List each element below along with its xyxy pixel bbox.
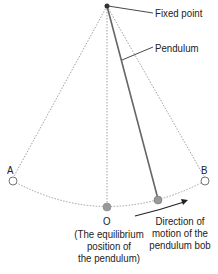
direction-caption: Direction of motion of the pendulum bob — [147, 215, 214, 251]
pendulum-string — [107, 6, 158, 199]
pendulum-leader — [122, 47, 153, 60]
fixed-point-leader — [108, 6, 153, 13]
dotted-line-to-a — [13, 6, 107, 178]
point-b-label: B — [201, 164, 207, 176]
point-o-label: O — [103, 215, 111, 227]
point-a-label: A — [7, 164, 13, 176]
direction-arrow — [135, 202, 184, 216]
equilibrium-caption: (The equilibrium position of the pendulu… — [68, 228, 151, 264]
pendulum-label: Pendulum — [155, 42, 199, 54]
bob-position-o — [103, 203, 111, 211]
direction-caption-line: motion of the — [147, 227, 214, 239]
arrow-head-icon — [181, 199, 188, 205]
direction-caption-line: Direction of — [147, 215, 214, 227]
dotted-line-to-b — [107, 6, 205, 178]
bob-position-b — [201, 177, 209, 185]
equilibrium-caption-line: position of — [68, 240, 151, 252]
equilibrium-caption-line: the pendulum) — [68, 252, 151, 264]
pendulum-bob — [154, 196, 162, 204]
equilibrium-caption-line: (The equilibrium — [68, 228, 151, 240]
swing-arc — [13, 181, 205, 207]
fixed-point-label: Fixed point — [155, 7, 202, 19]
bob-position-a — [9, 177, 17, 185]
direction-caption-line: pendulum bob — [147, 239, 214, 251]
